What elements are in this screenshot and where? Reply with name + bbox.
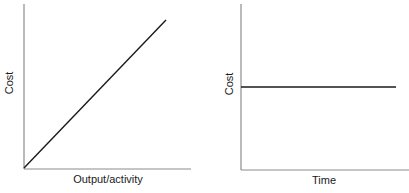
fixed-cost-plot bbox=[0, 0, 409, 193]
y-axis-label: Cost bbox=[223, 71, 235, 97]
fixed-cost-chart: Cost Time bbox=[0, 0, 409, 193]
x-axis-label: Time bbox=[312, 174, 336, 186]
